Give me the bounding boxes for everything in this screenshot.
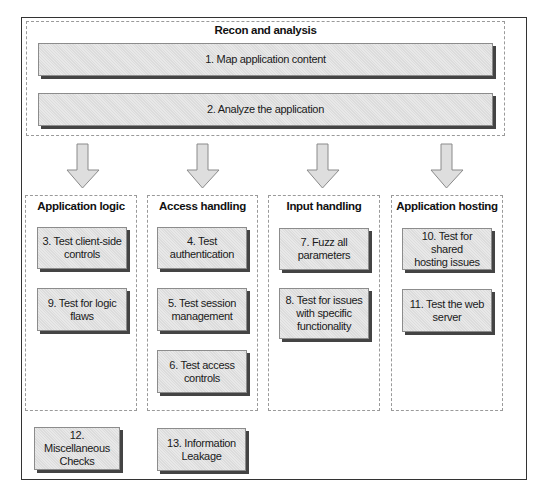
step-label: 10. Test for shared hosting issues: [407, 230, 487, 269]
step-label: 7. Fuzz all parameters: [298, 236, 351, 262]
step-information-leakage: 13. Information Leakage: [157, 428, 246, 471]
step-test-authentication: 4. Test authentication: [157, 227, 247, 269]
recon-group-title: Recon and analysis: [27, 24, 504, 36]
step-test-logic-flaws: 9. Test for logic flaws: [37, 288, 127, 331]
column-title: Access handling: [148, 200, 257, 212]
step-fuzz-all-parameters: 7. Fuzz all parameters: [279, 228, 369, 270]
down-arrow-icon: [430, 143, 464, 189]
step-miscellaneous-checks: 12. Miscellaneous Checks: [34, 427, 120, 470]
down-arrow-icon: [306, 143, 340, 189]
step-test-session-management: 5. Test session management: [157, 288, 247, 331]
step-label: 9. Test for logic flaws: [48, 297, 117, 323]
step-test-web-server: 11. Test the web server: [402, 289, 492, 332]
column-title: Application logic: [26, 200, 136, 212]
step-test-specific-functionality: 8. Test for issues with specific functio…: [279, 288, 369, 339]
step-label: 2. Analyze the application: [207, 103, 324, 116]
step-label: 5. Test session management: [168, 297, 236, 323]
step-label: 12. Miscellaneous Checks: [39, 429, 115, 468]
step-label: 13. Information Leakage: [167, 437, 236, 463]
down-arrow-icon: [186, 143, 220, 189]
step-test-access-controls: 6. Test access controls: [157, 350, 247, 393]
step-label: 3. Test client-side controls: [42, 235, 121, 261]
step-test-client-side-controls: 3. Test client-side controls: [37, 227, 127, 269]
down-arrow-icon: [66, 143, 100, 189]
step-label: 4. Test authentication: [170, 235, 234, 261]
step-label: 11. Test the web server: [410, 298, 484, 324]
step-test-shared-hosting: 10. Test for shared hosting issues: [402, 228, 492, 270]
column-title: Input handling: [269, 200, 379, 212]
step-label: 8. Test for issues with specific functio…: [286, 294, 363, 333]
step-label: 6. Test access controls: [169, 359, 234, 385]
step-analyze-application: 2. Analyze the application: [38, 93, 493, 126]
step-label: 1. Map application content: [205, 53, 326, 66]
column-title: Application hosting: [392, 200, 502, 212]
step-map-application-content: 1. Map application content: [38, 43, 493, 76]
